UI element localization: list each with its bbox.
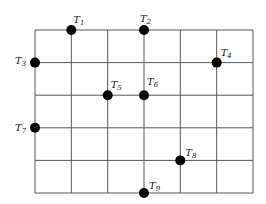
- point-marker: [139, 90, 149, 100]
- point-t7: T7: [15, 122, 40, 135]
- point-marker: [30, 58, 40, 68]
- point-marker: [139, 25, 149, 35]
- point-label: T8: [185, 147, 197, 160]
- point-marker: [139, 188, 149, 198]
- point-label: T1: [73, 14, 84, 27]
- grid-diagram-svg: T1T2T3T4T5T6T7T8T9: [0, 0, 266, 204]
- point-label: T2: [140, 13, 152, 26]
- point-marker: [30, 123, 40, 133]
- point-t1: T1: [66, 14, 84, 35]
- point-t9: T9: [139, 180, 161, 198]
- point-label: T9: [149, 180, 161, 193]
- point-label: T7: [15, 122, 27, 135]
- point-t8: T8: [175, 147, 197, 165]
- point-t6: T6: [139, 76, 159, 100]
- point-label: T6: [147, 76, 159, 89]
- point-label: T5: [111, 79, 123, 92]
- point-marker: [103, 90, 113, 100]
- point-marker: [66, 25, 76, 35]
- grid-diagram: T1T2T3T4T5T6T7T8T9: [0, 0, 266, 204]
- grid-points: T1T2T3T4T5T6T7T8T9: [15, 13, 232, 198]
- point-marker: [212, 58, 222, 68]
- point-label: T4: [221, 47, 232, 60]
- point-label: T3: [15, 55, 27, 68]
- point-marker: [175, 155, 185, 165]
- point-t3: T3: [15, 55, 40, 68]
- point-t2: T2: [139, 13, 152, 35]
- point-t5: T5: [103, 79, 123, 100]
- point-t4: T4: [212, 47, 232, 68]
